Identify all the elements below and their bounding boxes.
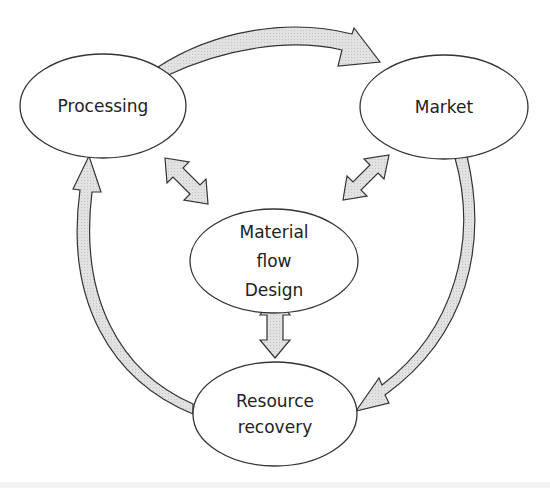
label-resource-recovery: Resource recovery (195, 388, 355, 440)
label-line-recovery: recovery (195, 414, 355, 440)
label-line-resource: Resource (195, 388, 355, 414)
arrow-market-to-resource-recovery (356, 156, 475, 411)
label-line-material: Material (194, 218, 354, 247)
arrow-resource-recovery-to-processing (73, 156, 193, 414)
label-material-flow-design: Material flow Design (194, 218, 354, 305)
material-flow-cycle-diagram: Processing Market Material flow Design R… (0, 0, 550, 488)
bidirectional-arrow-design-market (343, 155, 389, 200)
arrow-processing-to-market (158, 27, 380, 76)
label-line-design: Design (194, 276, 354, 305)
label-line-flow: flow (194, 247, 354, 276)
bottom-border (0, 482, 550, 488)
bidirectional-arrow-design-processing (165, 158, 208, 204)
label-processing: Processing (23, 94, 183, 118)
label-market: Market (364, 95, 524, 119)
